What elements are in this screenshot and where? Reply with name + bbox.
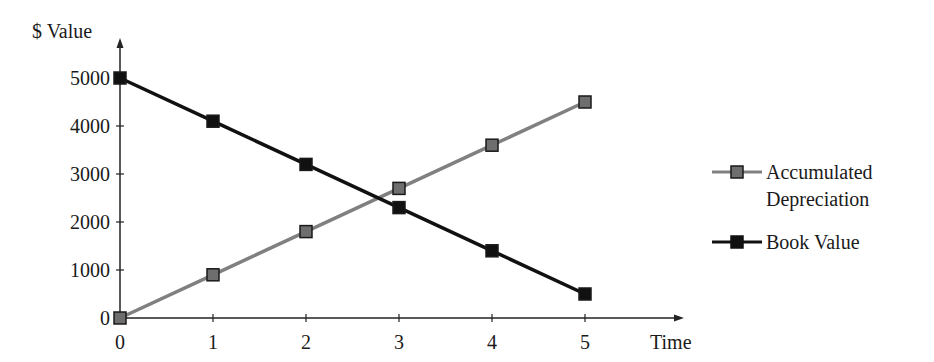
square-marker-icon <box>300 158 312 170</box>
legend-item-accumulated-depreciation: Accumulated Depreciation <box>712 161 873 211</box>
square-marker-icon <box>114 72 126 84</box>
legend-label: Book Value <box>766 231 860 253</box>
series-accumulated-depreciation <box>114 96 591 324</box>
y-tick-label: 2000 <box>70 211 110 233</box>
y-tick-label: 5000 <box>70 67 110 89</box>
x-tick-labels: 012345 <box>115 314 590 353</box>
legend-label: Accumulated <box>766 161 873 183</box>
square-marker-icon <box>300 226 312 238</box>
x-tick-label: 4 <box>487 331 497 353</box>
y-tick-label: 3000 <box>70 163 110 185</box>
data-series <box>114 72 591 324</box>
square-marker-icon <box>207 269 219 281</box>
legend-square-marker-icon <box>731 236 743 248</box>
legend-label-continued: Depreciation <box>766 188 869 211</box>
y-axis-title: $ Value <box>32 20 92 42</box>
x-tick-label: 1 <box>208 331 218 353</box>
x-axis-title: Time <box>650 331 692 353</box>
chart-canvas: $ Value Time 010002000300040005000 01234… <box>0 0 934 362</box>
x-tick-label: 3 <box>394 331 404 353</box>
square-marker-icon <box>486 245 498 257</box>
y-tick-labels: 010002000300040005000 <box>70 67 124 329</box>
square-marker-icon <box>486 139 498 151</box>
x-axis <box>118 315 684 322</box>
y-tick-label: 1000 <box>70 259 110 281</box>
x-tick-label: 2 <box>301 331 311 353</box>
square-marker-icon <box>393 202 405 214</box>
legend-square-marker-icon <box>731 166 743 178</box>
legend-item-book-value: Book Value <box>712 231 860 253</box>
square-marker-icon <box>207 115 219 127</box>
x-tick-label: 5 <box>580 331 590 353</box>
legend: Accumulated Depreciation Book Value <box>712 161 873 253</box>
x-tick-label: 0 <box>115 331 125 353</box>
square-marker-icon <box>579 96 591 108</box>
series-book-value <box>114 72 591 300</box>
y-tick-label: 4000 <box>70 115 110 137</box>
square-marker-icon <box>114 312 126 324</box>
square-marker-icon <box>579 288 591 300</box>
square-marker-icon <box>393 182 405 194</box>
y-tick-label: 0 <box>100 307 110 329</box>
